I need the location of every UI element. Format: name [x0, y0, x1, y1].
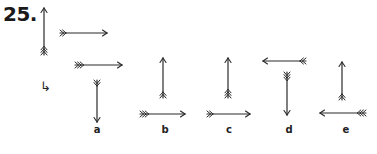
option-b-arrows[interactable] [140, 58, 185, 117]
arrow-icon [339, 62, 345, 100]
arrow-icon [263, 58, 306, 64]
option-label-b[interactable]: b [161, 124, 168, 135]
arrow-icon [60, 30, 107, 36]
arrow-icon [320, 110, 366, 116]
arrow-icon [225, 58, 231, 98]
arrow-icon [284, 72, 290, 115]
arrow-icon [160, 58, 166, 98]
option-label-e[interactable]: e [343, 124, 350, 135]
arrow-icon [75, 62, 122, 68]
option-label-d[interactable]: d [285, 124, 292, 135]
arrow-icon [41, 8, 47, 55]
question-arrows [41, 8, 122, 68]
option-a-arrows[interactable] [94, 80, 100, 122]
arrows-canvas [0, 0, 377, 154]
option-label-a[interactable]: a [94, 124, 101, 135]
option-e-arrows[interactable] [320, 62, 366, 116]
arrow-icon [140, 111, 185, 117]
option-c-arrows[interactable] [207, 58, 250, 117]
option-d-arrows[interactable] [263, 58, 306, 115]
arrow-icon [207, 111, 250, 117]
option-label-c[interactable]: c [226, 124, 232, 135]
puzzle-figure: 25. ↳ a b c d e [0, 0, 377, 154]
arrow-icon [94, 80, 100, 122]
